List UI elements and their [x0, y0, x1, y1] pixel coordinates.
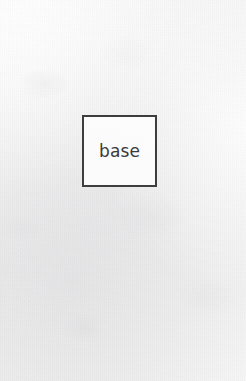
diagram-node-base-label: base: [99, 143, 140, 160]
paper-grain-texture: [0, 0, 246, 381]
paper-mottle-texture: [0, 0, 246, 381]
diagram-node-base[interactable]: base: [82, 115, 157, 187]
diagram-canvas: base: [0, 0, 246, 381]
